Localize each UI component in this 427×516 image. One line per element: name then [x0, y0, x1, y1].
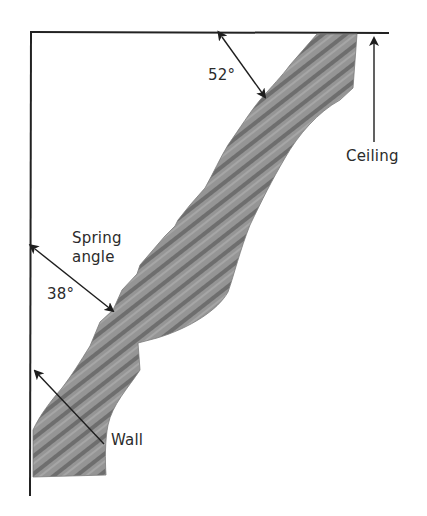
spring-angle-label: Spring angle	[72, 229, 122, 267]
wall-line	[30, 31, 31, 496]
bottom-angle-label: 38°	[47, 285, 74, 304]
ceiling-line	[31, 32, 389, 33]
spring-angle-label-line2: angle	[72, 248, 122, 267]
wall-label: Wall	[111, 431, 143, 450]
spring-angle-label-line1: Spring	[72, 229, 122, 248]
ceiling-label: Ceiling	[346, 147, 399, 166]
top-angle-label: 52°	[208, 66, 235, 85]
